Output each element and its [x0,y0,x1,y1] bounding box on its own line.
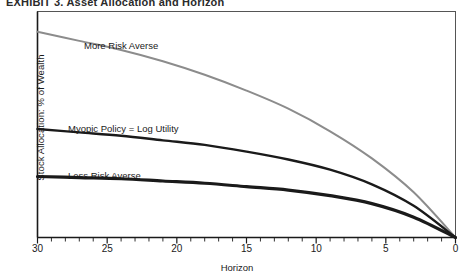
x-axis-title: Horizon [0,262,474,273]
series-label-2: Myopic Policy = Log Utility [68,123,179,134]
series-label-1: More Risk Averse [84,40,158,51]
x-tick-label: 20 [171,243,182,254]
x-tick-label: 10 [311,243,322,254]
y-axis-title: Stock Allocation: % of Wealth [35,18,46,218]
chart-figure: EXHIBIT 3. Asset Allocation and Horizon … [0,0,474,280]
x-tick-label: 25 [102,243,113,254]
x-tick-label: 15 [241,243,252,254]
clipped-exhibit-caption: EXHIBIT 3. Asset Allocation and Horizon [6,0,306,6]
x-tick-label: 0 [453,243,459,254]
x-tick-label: 30 [32,243,43,254]
series-label-3: Less Risk Averse [68,170,141,181]
series-line-3 [38,176,456,237]
series-line-2 [38,129,456,237]
x-tick-label: 5 [383,243,389,254]
plot-area [0,0,474,280]
